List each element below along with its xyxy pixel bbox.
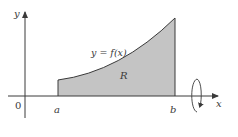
x-axis-label: x [216, 98, 222, 109]
region-label: R [119, 70, 128, 81]
origin-label: 0 [15, 100, 21, 111]
diagram-canvas: y x 0 a b y = f(x) R [0, 0, 238, 137]
a-label: a [54, 104, 60, 115]
y-axis-label: y [13, 8, 20, 19]
b-label: b [170, 104, 176, 115]
curve-label: y = f(x) [90, 47, 127, 58]
